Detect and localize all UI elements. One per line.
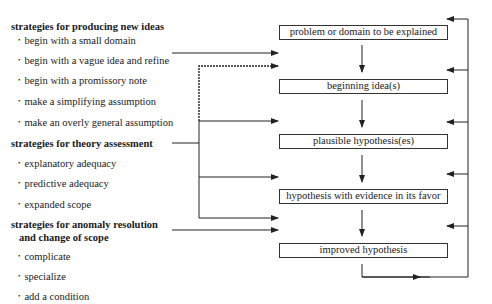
list-item: begin with a small domain [18,35,136,48]
list-item: make a simplifying assumption [18,96,156,109]
list-item: expanded scope [18,199,91,212]
heading-theory-assessment: strategies for theory assessment [11,138,153,150]
dashed-arrow-to-beginning [199,66,278,121]
list-item: begin with a vague idea and refine [18,55,169,68]
list-item: add a condition [18,291,89,304]
list-item: specialize [18,271,66,284]
list-item: begin with a promissory note [18,75,147,88]
list-item: complicate [18,251,71,264]
list-item: explanatory adequacy [18,158,116,171]
box-improved-hypothesis: improved hypothesis [279,243,448,258]
heading-anomaly-resolution-line2: and change of scope [19,232,109,244]
box-beginning-ideas: beginning idea(s) [279,79,448,94]
box-plausible-hypotheses: plausible hypothesis(es) [279,134,448,149]
box-hypothesis-with-evidence: hypothesis with evidence in its favor [279,189,448,204]
heading-producing-new-ideas: strategies for producing new ideas [11,21,164,33]
heading-anomaly-resolution: strategies for anomaly resolution [11,219,158,231]
list-item: make an overly general assumption [18,117,173,130]
box-problem-domain: problem or domain to be explained [279,25,448,40]
list-item: predictive adequacy [18,178,109,191]
